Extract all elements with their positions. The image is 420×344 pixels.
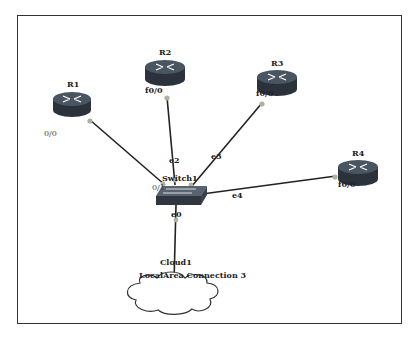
router-r2-icon[interactable] (145, 60, 185, 86)
link-r1-switch[interactable] (90, 120, 165, 185)
node-label-r2: R2 (159, 48, 171, 56)
topology-canvas: R1 0/0 R2 f0/0 R3 f0/0 R4 f0/0 Switch1 0… (0, 0, 420, 344)
link-r3-switch[interactable] (192, 103, 262, 186)
link-label-e4: e4 (232, 191, 243, 199)
port-label-r4: f0/0 (338, 180, 356, 188)
port-label-r2: f0/0 (145, 86, 163, 94)
port-dot-r2 (164, 95, 169, 100)
router-r1-icon[interactable] (53, 92, 91, 117)
link-label-e3: e3 (211, 152, 222, 160)
port-label-switch1: 0/1 (152, 184, 165, 192)
node-label-switch1: Switch1 (162, 174, 198, 182)
port-dot-r4 (332, 174, 337, 179)
node-label-r3: R3 (271, 59, 283, 67)
port-label-r1: 0/0 (44, 130, 57, 138)
port-dot-r1 (87, 118, 92, 123)
node-label-r4: R4 (352, 149, 364, 157)
port-dot-r3 (259, 101, 264, 106)
link-label-e0: e0 (171, 210, 182, 218)
links-layer (0, 0, 420, 344)
cloud1-sublabel: LocalArea Connection 3 (139, 271, 246, 279)
link-label-e2: e2 (169, 156, 180, 164)
link-r2-switch[interactable] (167, 97, 175, 185)
link-r4-switch[interactable] (202, 176, 336, 194)
node-label-r1: R1 (67, 80, 79, 88)
node-label-cloud1: Cloud1 (160, 258, 192, 266)
port-label-r3: f0/0 (256, 89, 274, 97)
